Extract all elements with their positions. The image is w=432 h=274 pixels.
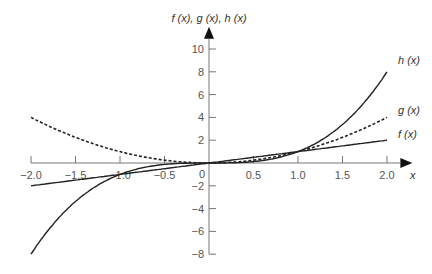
y-tick-label: −8 [191, 248, 204, 260]
h-label: h (x) [398, 54, 420, 66]
y-axis-arrow-icon [204, 27, 214, 39]
y-axis-title: f (x), g (x), h (x) [171, 12, 247, 24]
y-tick-label: 6 [198, 89, 204, 101]
y-tick-label: −4 [191, 203, 204, 215]
x-tick-label: 2.0 [379, 169, 394, 181]
x-tick-label: 1.5 [335, 169, 350, 181]
f-label: f (x) [398, 128, 417, 140]
x-tick-label: −2.0 [20, 169, 42, 181]
function-plot: −2.0−1.5−1.0−0.500.51.01.52.0108642−2−4−… [0, 0, 432, 274]
y-tick-label: 10 [192, 43, 204, 55]
x-tick-label: 0.5 [246, 169, 261, 181]
x-tick-label: −0.5 [154, 169, 176, 181]
x-tick-label: 1.0 [290, 169, 305, 181]
y-tick-label: 2 [198, 134, 204, 146]
tick-labels: −2.0−1.5−1.0−0.500.51.01.52.0108642−2−4−… [20, 43, 395, 260]
x-axis-arrow-icon [400, 158, 412, 168]
g-label: g (x) [398, 104, 420, 116]
y-tick-label: −2 [191, 180, 204, 192]
y-tick-label: 8 [198, 66, 204, 78]
x-axis-title: x [409, 169, 416, 181]
y-tick-label: −6 [191, 225, 204, 237]
origin-label: 0 [199, 168, 205, 180]
axes [31, 27, 412, 254]
y-tick-label: 4 [198, 111, 204, 123]
